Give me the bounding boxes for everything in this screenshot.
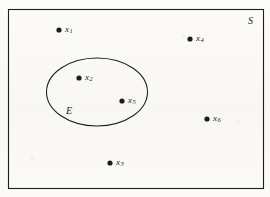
outcome-dot-x5 bbox=[119, 98, 124, 103]
event-ellipse bbox=[47, 58, 148, 126]
outcome-label-x1: x1 bbox=[65, 25, 73, 35]
outcome-label-subscript: 1 bbox=[69, 27, 72, 34]
sample-space-label-text: S bbox=[248, 15, 253, 26]
outcome-dot-x2 bbox=[76, 75, 81, 80]
set-diagram-figure: SEx1x2x3x4x5x6 bbox=[0, 0, 270, 197]
outcome-label-x3: x3 bbox=[116, 158, 124, 168]
sample-space-label: S bbox=[248, 16, 253, 26]
outcome-label-subscript: 6 bbox=[217, 116, 220, 123]
outcome-label-subscript: 4 bbox=[200, 36, 203, 43]
event-label: E bbox=[66, 106, 72, 116]
outcome-dot-x1 bbox=[56, 27, 61, 32]
event-label-text: E bbox=[66, 105, 72, 116]
outcome-label-x4: x4 bbox=[196, 34, 204, 44]
outcome-dot-x3 bbox=[107, 160, 112, 165]
outcome-label-subscript: 2 bbox=[89, 75, 92, 82]
outcome-dot-x4 bbox=[187, 36, 192, 41]
outcome-label-subscript: 3 bbox=[120, 160, 123, 167]
outcome-dot-x6 bbox=[204, 116, 209, 121]
outcome-label-x6: x6 bbox=[213, 114, 221, 124]
outcome-label-x2: x2 bbox=[85, 73, 93, 83]
outcome-label-x5: x5 bbox=[128, 96, 136, 106]
outcome-label-subscript: 5 bbox=[132, 98, 135, 105]
sample-space-rectangle bbox=[9, 10, 264, 189]
